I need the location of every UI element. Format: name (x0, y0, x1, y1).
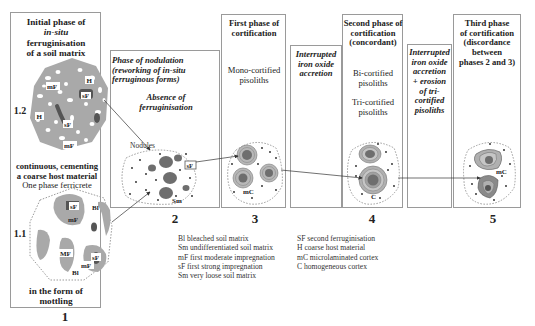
label-sF-3: sF (70, 203, 77, 211)
panel-4-bi-line-2: pisoliths (343, 79, 403, 89)
legend-right: SF second ferruginisation H coarse host … (297, 234, 378, 271)
panel-1-title-line-1: Initial phase of (14, 17, 98, 27)
interrupted-2-line-7: pisoliths (407, 106, 452, 116)
label-sF-4: sF (92, 254, 99, 262)
label-sF-2: sF (64, 121, 71, 129)
arrow-3-4 (281, 170, 362, 178)
legend-item-h: H coarse host material (297, 243, 378, 252)
panel-3-title-line-2: cortification (222, 29, 286, 39)
panel-2-subtitle: Absence of ferruginisation (112, 93, 220, 112)
panel-1-bottom-line-2: mottling (14, 296, 98, 306)
label-sF-5: sF (187, 162, 194, 169)
mono-cortified-pisoliths (228, 142, 283, 204)
label-mC-1: mC (243, 188, 254, 196)
arrow-1-2-lower (112, 192, 150, 222)
label-sF-1: sF (82, 92, 89, 100)
panel-5-title-line-5: phases 2 and 3) (453, 58, 521, 68)
panel-4-description-bi: Bi-cortified pisoliths (343, 69, 403, 88)
legend-item-mf: mF first moderate impregnation (178, 253, 275, 262)
legend-item-c: C homogeneous cortex (297, 262, 378, 271)
label-H-2: H (37, 113, 43, 121)
panel-3-title: First phase of cortification (222, 19, 286, 38)
label-MF: MF (60, 250, 71, 258)
panel-5-title: Third phase of cortification (discordanc… (453, 19, 521, 67)
panel-2-title-line-3: ferruginous forms) (112, 75, 220, 85)
panel-2-subtitle-line-2: ferruginisation (112, 103, 220, 113)
arrow-2-3 (196, 156, 238, 162)
label-mF-1: mF (47, 83, 57, 91)
interrupted-accretion-text-1: Interrupted iron oxide accretion (291, 50, 341, 79)
panel-1-title-line-3: ferruginisation (14, 38, 98, 48)
panel-3-number: 3 (245, 211, 265, 227)
panel-4-title-line-3: (concordant) (340, 38, 406, 48)
panel-1-title-line-4: of a soil matrix (14, 48, 98, 58)
legend-item-mc: mC microlaminated cortex (297, 253, 378, 262)
panel-1-bottom-line-1: in the form of (14, 286, 98, 296)
label-mF-3: mF (68, 216, 78, 224)
panel-4-tri-line-2: pisoliths (343, 108, 403, 118)
legend-item-sf: sF first strong impregnation (178, 262, 275, 271)
label-nodules: Nodules (130, 141, 155, 150)
label-mF-4: mF (81, 262, 91, 270)
legend-left: Bl bleached soil matrix Sm undifferentia… (178, 234, 275, 280)
interrupted-accretion-text-2: Interrupted iron oxide accretion + erosi… (407, 48, 452, 115)
label-C: C (371, 193, 376, 201)
label-Sm: Sm (172, 197, 182, 205)
sub-panel-1-1-label: 1.1 (10, 228, 30, 239)
legend-item-sf-second: SF second ferruginisation (297, 234, 378, 243)
panel-4-description-tri: Tri-cortified pisoliths (343, 98, 403, 117)
panel-1-title-line-2: in-situ (14, 27, 98, 37)
panel-4-number: 4 (362, 211, 382, 227)
panel-1-title: Initial phase of in-situ ferruginisation… (14, 17, 98, 58)
panel-4-title: Second phase of cortification (concordan… (340, 19, 406, 48)
discordant-pisoliths (464, 142, 516, 204)
legend-item-sm-loose: Sm very loose soil matrix (178, 271, 275, 280)
label-Bl-2: Bl (72, 269, 79, 277)
panel-3-description: Mono-cortified pisoliths (222, 66, 286, 85)
label-mC-2: mC (496, 168, 507, 176)
interrupted-1-line-3: accretion (291, 69, 341, 79)
sub-panel-1-2-label: 1.2 (10, 105, 30, 116)
panel-3-description-line-2: pisoliths (222, 76, 286, 86)
panel-1-middle-text: continuous, cementing a coarse host mate… (12, 162, 102, 191)
panel-1-number: 1 (55, 309, 75, 325)
label-H-1: H (87, 77, 93, 85)
label-Bl-1: Bl (92, 204, 99, 212)
legend-item-bl: Bl bleached soil matrix (178, 234, 275, 243)
legend-item-sm: Sm undifferentiated soil matrix (178, 243, 275, 252)
panel-1-middle-line-3: One phase ferricrete (12, 181, 102, 191)
panel-2-number: 2 (165, 211, 185, 227)
nodules-shape (122, 150, 196, 204)
ferricrete-matrix-shape (30, 58, 108, 150)
panel-2-title: Phase of nodulation (reworking of in-sit… (112, 56, 220, 85)
panel-5-number: 5 (483, 211, 503, 227)
label-mF-2: mF (64, 142, 74, 150)
panel-1-bottom-text: in the form of mottling (14, 286, 98, 307)
